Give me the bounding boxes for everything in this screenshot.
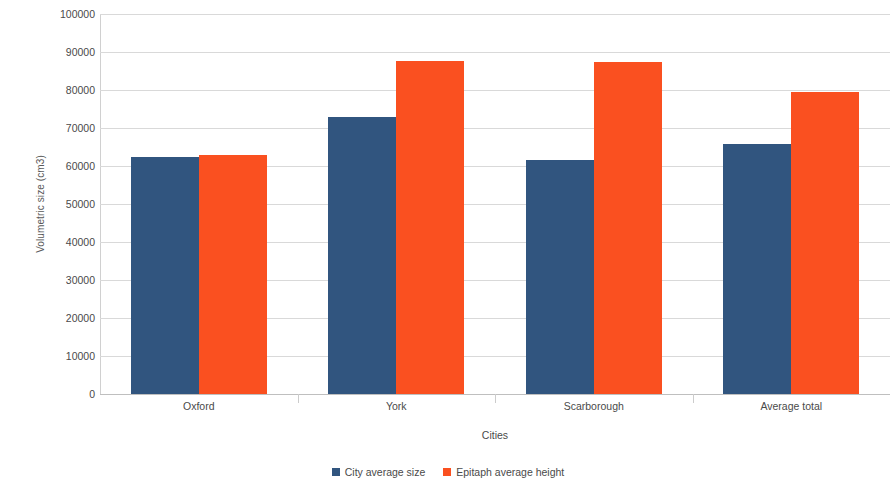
y-axis-tick-label: 50000 <box>11 199 95 209</box>
bar-oxford-1[interactable] <box>199 155 267 394</box>
bar-york-0[interactable] <box>328 117 396 394</box>
legend-item-1[interactable]: Epitaph average height <box>443 466 564 478</box>
bar-chart: Volumetric size (cm3) 010000200003000040… <box>0 0 896 486</box>
legend-item-0[interactable]: City average size <box>332 466 426 478</box>
bar-average-total-1[interactable] <box>791 92 859 394</box>
bar-oxford-0[interactable] <box>131 157 199 394</box>
x-axis-label-york: York <box>298 400 496 412</box>
gridline <box>100 128 890 129</box>
gridline <box>100 52 890 53</box>
y-axis-tick-label: 0 <box>11 389 95 399</box>
bar-scarborough-1[interactable] <box>594 62 662 394</box>
chart-legend: City average sizeEpitaph average height <box>0 466 896 478</box>
y-axis-tick-label: 80000 <box>11 85 95 95</box>
y-axis-tick-label: 60000 <box>11 161 95 171</box>
bar-average-total-0[interactable] <box>723 144 791 394</box>
legend-label: Epitaph average height <box>456 466 564 478</box>
y-axis-tick-label: 30000 <box>11 275 95 285</box>
x-axis-label-average-total: Average total <box>693 400 891 412</box>
legend-swatch-icon <box>443 468 451 476</box>
y-axis-tick-label: 100000 <box>11 9 95 19</box>
gridline <box>100 90 890 91</box>
y-axis-tick-label: 90000 <box>11 47 95 57</box>
gridline <box>100 14 890 15</box>
y-axis-tick-labels: 0100002000030000400005000060000700008000… <box>0 0 95 486</box>
bar-scarborough-0[interactable] <box>526 160 594 394</box>
y-axis-tick-label: 70000 <box>11 123 95 133</box>
y-axis-tick-label: 10000 <box>11 351 95 361</box>
bar-york-1[interactable] <box>396 61 464 394</box>
x-axis-title: Cities <box>100 429 890 441</box>
x-axis-label-scarborough: Scarborough <box>495 400 693 412</box>
y-axis-tick-label: 40000 <box>11 237 95 247</box>
plot-area <box>100 14 890 394</box>
x-axis-label-oxford: Oxford <box>100 400 298 412</box>
y-axis-tick-label: 20000 <box>11 313 95 323</box>
legend-swatch-icon <box>332 468 340 476</box>
legend-label: City average size <box>345 466 426 478</box>
